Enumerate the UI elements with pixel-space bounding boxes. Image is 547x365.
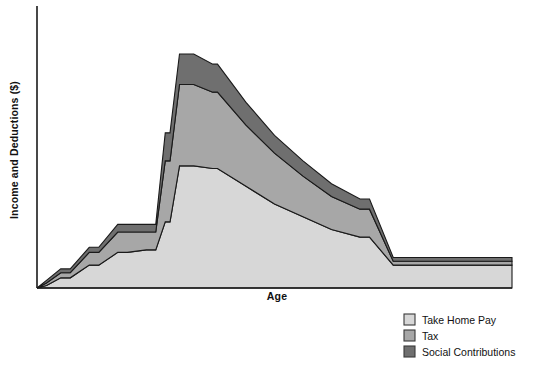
income-deductions-chart: Income and Deductions ($) Age Take Home … [0,0,547,365]
y-axis-label: Income and Deductions ($) [8,81,20,219]
legend-label-tax: Tax [422,330,439,342]
x-axis-label: Age [267,290,287,302]
legend-label-take-home-pay: Take Home Pay [422,314,497,326]
legend-label-social-contributions: Social Contributions [422,346,515,358]
chart-canvas: Income and Deductions ($) Age Take Home … [0,0,547,365]
legend-swatch-take-home-pay [404,314,415,325]
legend-swatch-tax [404,330,415,341]
legend-swatch-social-contributions [404,346,415,357]
